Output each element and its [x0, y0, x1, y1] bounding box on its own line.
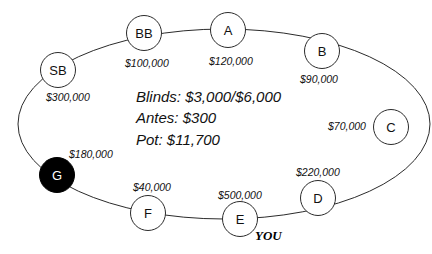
seat-e[interactable]: E — [222, 201, 258, 237]
seat-label-f: F — [144, 207, 152, 220]
seat-g[interactable]: G — [39, 157, 75, 193]
seat-bb[interactable]: BB — [126, 15, 162, 51]
stack-amount-c: $70,000 — [328, 121, 366, 132]
poker-table-diagram: SBBBABCDEFG $300,000$100,000$120,000$90,… — [0, 0, 432, 254]
seat-sb[interactable]: SB — [40, 52, 76, 88]
stack-amount-e: $500,000 — [218, 190, 262, 201]
seat-a[interactable]: A — [210, 12, 246, 48]
seat-label-sb: SB — [49, 64, 66, 77]
seat-label-b: B — [318, 45, 327, 58]
center-info-block: Blinds: $3,000/$6,000 Antes: $300 Pot: $… — [136, 86, 281, 150]
stack-amount-bb: $100,000 — [125, 58, 169, 69]
seat-f[interactable]: F — [130, 195, 166, 231]
seat-c[interactable]: C — [373, 109, 409, 145]
seat-d[interactable]: D — [300, 180, 336, 216]
blinds-line: Blinds: $3,000/$6,000 — [136, 86, 281, 107]
stack-amount-d: $220,000 — [296, 167, 340, 178]
seat-label-e: E — [236, 213, 245, 226]
stack-amount-g: $180,000 — [69, 149, 113, 160]
seat-label-c: C — [386, 121, 395, 134]
you-label: YOU — [255, 229, 282, 242]
stack-amount-b: $90,000 — [300, 74, 338, 85]
stack-amount-sb: $300,000 — [46, 92, 90, 103]
seat-label-a: A — [224, 24, 233, 37]
antes-line: Antes: $300 — [136, 107, 281, 128]
pot-line: Pot: $11,700 — [136, 129, 281, 150]
seat-b[interactable]: B — [304, 33, 340, 69]
seat-label-g: G — [52, 169, 62, 182]
stack-amount-a: $120,000 — [209, 56, 253, 67]
seat-label-d: D — [313, 192, 322, 205]
seat-label-bb: BB — [135, 27, 152, 40]
stack-amount-f: $40,000 — [133, 182, 171, 193]
